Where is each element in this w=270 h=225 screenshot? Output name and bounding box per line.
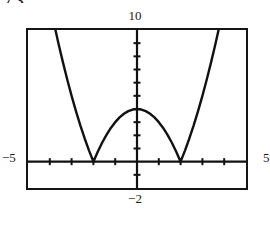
calculator-screen-frame [26,28,248,190]
plot-screenshot: 7 3. 10 −5 5 −2 [0,0,270,225]
y-max-label: 10 [0,8,270,24]
y-min-label: −2 [0,191,270,207]
clipped-header-text: 7 3. [4,0,29,3]
function-plot [28,30,246,188]
x-max-label: 5 [263,150,270,166]
x-min-label: −5 [2,150,16,166]
